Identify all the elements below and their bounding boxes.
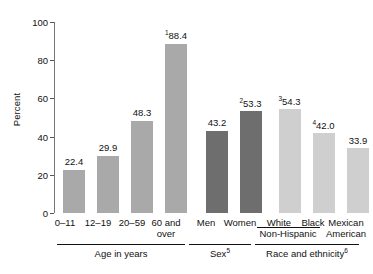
y-tick-label-40: 40: [22, 133, 48, 143]
x-label-sex-women: Women: [218, 217, 262, 228]
x-label-non-hispanic: Non-Hispanic: [253, 228, 323, 239]
bar-label-age-20-59: 48.3: [122, 108, 162, 118]
bar-label-sex-men: 43.2: [197, 118, 237, 128]
bar-label-age-12-19: 29.9: [88, 143, 128, 153]
group-label-race: Race and ethnicity6: [255, 248, 359, 259]
bar-label-race-mexican: 33.9: [338, 136, 373, 146]
bar-age-20-59: [131, 121, 153, 213]
group-label-age: Age in years: [57, 248, 185, 259]
y-tick-mark-0: [50, 213, 54, 214]
group-rule-sex: [189, 244, 251, 245]
group-rule-age: [57, 244, 185, 245]
x-label-age-60-over: 60 and: [145, 217, 187, 228]
bar-label-age-0-11: 22.4: [54, 157, 94, 167]
bar-age-0-11: [63, 170, 85, 213]
bar-age-60-over: [165, 44, 187, 213]
group-label-sex: Sex5: [189, 248, 251, 259]
plot-area: 22.4 29.9 48.3 188.4 43.2 253.3 354.3: [55, 22, 357, 213]
bar-race-mexican: [347, 148, 369, 213]
bar-label-race-white: 354.3: [268, 97, 311, 107]
bar-sex-women: [240, 111, 262, 213]
bar-sex-men: [206, 131, 228, 214]
y-tick-label-20: 20: [22, 171, 48, 181]
y-tick-label-80: 80: [22, 56, 48, 66]
x-label-race-mexican-line2: American: [322, 228, 370, 239]
bar-race-black: [313, 133, 335, 213]
bar-label-race-black: 442.0: [302, 121, 345, 131]
x-label-race-mexican: Mexican: [322, 217, 370, 228]
bar-label-sex-women: 253.3: [229, 99, 272, 109]
x-label-age-60-over-line2: over: [145, 228, 187, 239]
group-rule-race: [255, 244, 359, 245]
y-tick-label-60: 60: [22, 94, 48, 104]
y-axis-title: Percent: [11, 70, 22, 150]
y-tick-label-100: 100: [22, 18, 48, 28]
bar-age-12-19: [97, 156, 119, 213]
bar-label-age-60-over: 188.4: [155, 31, 197, 41]
bar-race-white: [279, 109, 301, 213]
